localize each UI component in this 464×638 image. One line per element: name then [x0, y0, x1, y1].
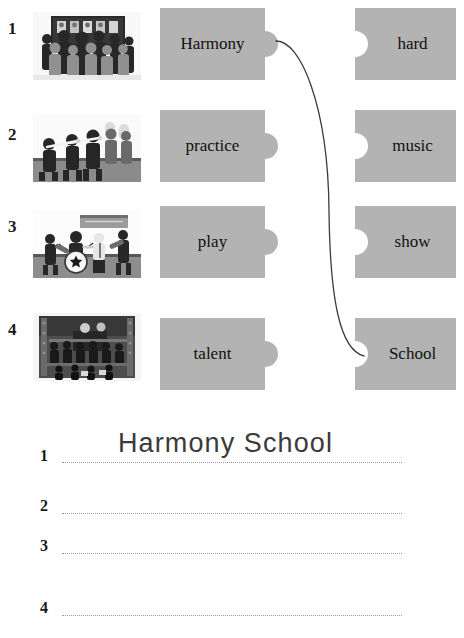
word-piece-left-1-label: Harmony: [160, 8, 265, 80]
word-piece-right-2-label: music: [369, 110, 456, 182]
word-piece-right-2[interactable]: music: [355, 110, 456, 182]
word-piece-left-4-label: talent: [160, 318, 265, 390]
answer-number-3: 3: [40, 538, 60, 554]
row-image-2: [33, 114, 141, 182]
answer-line-3[interactable]: [62, 553, 402, 554]
answer-text-1[interactable]: Harmony School: [118, 430, 333, 457]
word-piece-right-4[interactable]: School: [355, 318, 456, 390]
row-number-1: 1: [8, 20, 32, 37]
word-piece-left-4[interactable]: talent: [160, 318, 278, 390]
answer-number-1: 1: [40, 448, 60, 464]
word-piece-left-3-label: play: [160, 206, 265, 278]
row-image-4: [33, 313, 141, 381]
word-piece-right-3[interactable]: show: [355, 206, 456, 278]
row-number-2: 2: [8, 126, 32, 143]
answer-number-4: 4: [40, 600, 60, 616]
answer-number-2: 2: [40, 498, 60, 514]
row-number-3: 3: [8, 218, 32, 235]
rock-band-stage-illustration: [33, 210, 141, 278]
choir-risers-illustration: [33, 313, 141, 381]
row-image-3: [33, 210, 141, 278]
marching-band-illustration: [33, 114, 141, 182]
row-image-1: [33, 12, 141, 80]
word-piece-left-3[interactable]: play: [160, 206, 278, 278]
word-piece-left-1[interactable]: Harmony: [160, 8, 278, 80]
word-piece-left-2-label: practice: [160, 110, 265, 182]
students-noticeboard-illustration: [33, 12, 141, 80]
word-piece-left-2[interactable]: practice: [160, 110, 278, 182]
answer-line-1[interactable]: [62, 462, 402, 463]
word-piece-right-1-label: hard: [369, 8, 456, 80]
answer-line-4[interactable]: [62, 615, 402, 616]
word-piece-right-3-label: show: [369, 206, 456, 278]
answer-line-2[interactable]: [62, 513, 402, 514]
word-piece-right-4-label: School: [369, 318, 456, 390]
row-number-4: 4: [8, 321, 32, 338]
word-piece-right-1[interactable]: hard: [355, 8, 456, 80]
matching-worksheet: 1: [0, 0, 464, 638]
